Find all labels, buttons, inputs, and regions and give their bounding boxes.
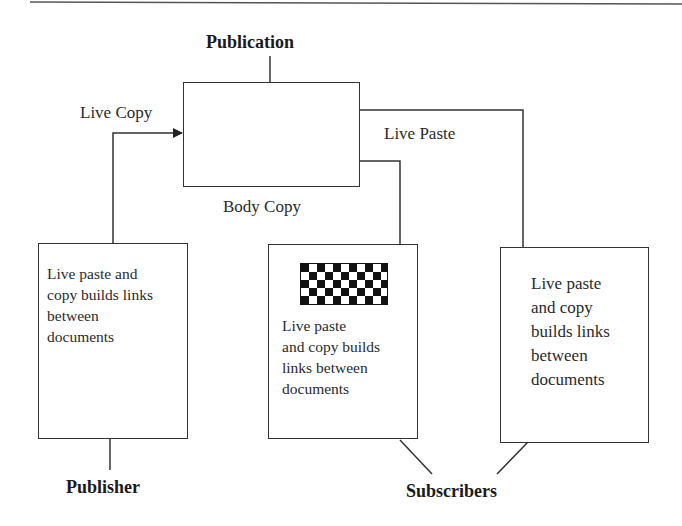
live-paste-label: Live Paste	[384, 124, 455, 143]
subscriber-document-1: Live paste and copy builds links between…	[268, 244, 418, 439]
subscriber-2-text: Live paste and copy builds links between…	[531, 272, 610, 392]
top-rule	[30, 2, 682, 4]
checkerboard-graphic-icon	[300, 263, 388, 305]
publisher-label: Publisher	[66, 478, 140, 497]
publication-title: Publication	[206, 33, 294, 52]
body-copy-label: Body Copy	[223, 197, 301, 216]
publisher-document: Live paste and copy builds links between…	[38, 243, 188, 439]
subscriber-1-text: Live paste and copy builds links between…	[282, 315, 380, 399]
live-copy-label: Live Copy	[80, 103, 152, 122]
subscribers-label: Subscribers	[406, 482, 497, 501]
publisher-text: Live paste and copy builds links between…	[47, 263, 153, 347]
subscriber-document-2: Live paste and copy builds links between…	[500, 247, 649, 443]
publication-box	[183, 82, 360, 187]
